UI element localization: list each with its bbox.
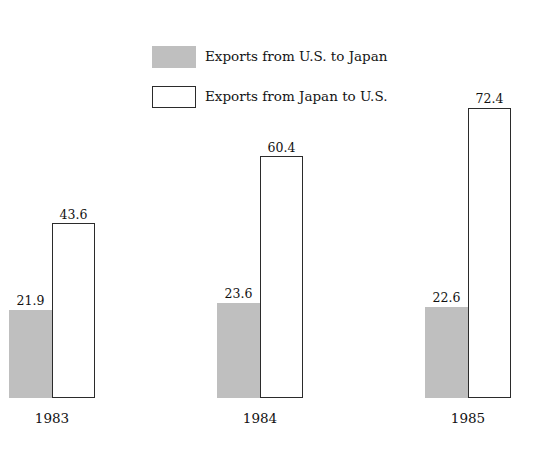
- category-label-1983: 1983: [35, 412, 69, 426]
- category-label-1984: 1984: [243, 412, 277, 426]
- value-label-us-to-japan-1984: 23.6: [225, 288, 253, 301]
- value-label-us-to-japan-1985: 22.6: [433, 292, 461, 305]
- category-label-1985: 1985: [451, 412, 485, 426]
- value-label-japan-to-us-1985: 72.4: [476, 93, 504, 106]
- bar-exports-us-to-japan-1984[interactable]: 23.6: [217, 303, 260, 398]
- value-label-japan-to-us-1984: 60.4: [268, 142, 296, 155]
- bar-exports-japan-to-us-1985[interactable]: 72.4: [468, 108, 511, 398]
- bar-exports-japan-to-us-1984[interactable]: 60.4: [260, 156, 303, 398]
- value-label-us-to-japan-1983: 21.9: [17, 295, 45, 308]
- value-label-japan-to-us-1983: 43.6: [60, 209, 88, 222]
- chart-page: Exports from U.S. to Japan Exports from …: [0, 0, 540, 453]
- bar-exports-us-to-japan-1985[interactable]: 22.6: [425, 307, 468, 398]
- plot-area: 21.9 43.6 1983 23.6 60.4 1984 22.6 72.4: [0, 0, 540, 453]
- bar-exports-japan-to-us-1983[interactable]: 43.6: [52, 223, 95, 398]
- bar-exports-us-to-japan-1983[interactable]: 21.9: [9, 310, 52, 398]
